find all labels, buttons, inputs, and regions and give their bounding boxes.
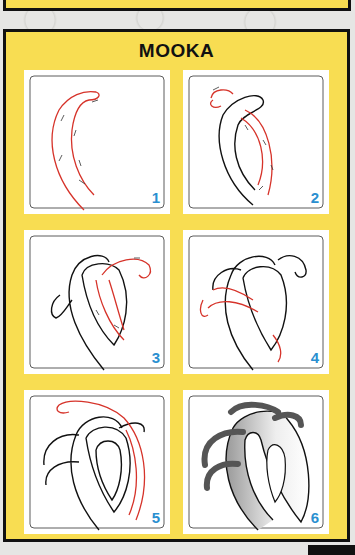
step-number: 6: [311, 509, 319, 526]
step-1-drawing: [24, 70, 170, 214]
step-3-tile: 3: [24, 230, 170, 374]
next-panel-edge: [308, 545, 355, 555]
step-6-drawing: [183, 390, 329, 534]
step-6-tile: 6: [183, 390, 329, 534]
step-number: 3: [152, 349, 160, 366]
mooka-instruction-panel: MOOKA 1 2 3: [3, 29, 350, 542]
step-3-drawing: [24, 230, 170, 374]
step-number: 1: [152, 189, 160, 206]
step-4-tile: 4: [183, 230, 329, 374]
step-2-drawing: [183, 70, 329, 214]
step-2-tile: 2: [183, 70, 329, 214]
step-5-drawing: [24, 390, 170, 534]
step-4-drawing: [183, 230, 329, 374]
step-number: 2: [311, 189, 319, 206]
step-number: 4: [311, 349, 319, 366]
step-5-tile: 5: [24, 390, 170, 534]
previous-panel-edge: [3, 0, 351, 11]
page-title: MOOKA: [6, 40, 347, 62]
step-number: 5: [152, 509, 160, 526]
step-1-tile: 1: [24, 70, 170, 214]
